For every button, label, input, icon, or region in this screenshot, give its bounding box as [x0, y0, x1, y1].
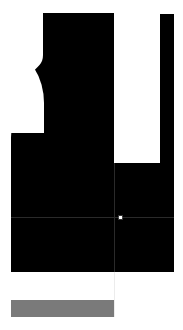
video-canvas[interactable]: [11, 13, 114, 163]
panel-bottom-right[interactable]: [114, 217, 174, 272]
app-window: [0, 0, 183, 330]
panel-bottom-left[interactable]: [11, 217, 114, 272]
center-marker-dot[interactable]: [119, 216, 122, 219]
right-rail[interactable]: [160, 14, 174, 163]
panel-grid: [11, 163, 174, 272]
panel-top-right[interactable]: [114, 163, 174, 217]
vertical-guide-line: [114, 272, 115, 317]
status-bar[interactable]: [11, 300, 114, 317]
panel-top-left[interactable]: [11, 163, 114, 217]
